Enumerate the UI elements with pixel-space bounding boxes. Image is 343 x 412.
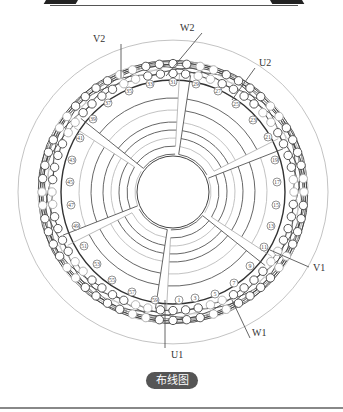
figure-caption: 布线图	[146, 372, 198, 389]
slot-number: 49	[73, 223, 79, 229]
slot-number: 59	[152, 297, 158, 303]
slot-number: 5	[214, 291, 217, 297]
terminal-label-w1: W1	[252, 327, 266, 338]
slot-number: 39	[90, 116, 96, 122]
slot-number: 3	[194, 295, 197, 301]
slot-number: 9	[249, 263, 252, 269]
slot-number: 37	[105, 100, 111, 106]
slot-number: 43	[69, 157, 75, 163]
slot-number: 57	[129, 289, 135, 295]
slot-number: 25	[233, 101, 239, 107]
slot-number: 53	[94, 261, 100, 267]
slot-number: 41	[77, 135, 83, 141]
slot-number: 11	[261, 244, 267, 250]
slot-number: 15	[273, 202, 279, 208]
slot-number: 29	[193, 81, 199, 87]
slot-number: 45	[67, 179, 73, 185]
slot-number: 51	[81, 243, 87, 249]
slot-number: 19	[272, 157, 278, 163]
terminal-label-u2: U2	[259, 57, 271, 68]
bottom-divider	[0, 407, 343, 409]
slot-number: 47	[68, 202, 74, 208]
terminal-label-u1: U1	[171, 349, 183, 360]
slot-number: 21	[265, 134, 271, 140]
slot-number: 7	[233, 280, 236, 286]
slot-number: 35	[126, 88, 132, 94]
slot-number: 33	[147, 81, 153, 87]
slot-number: 31	[170, 79, 176, 85]
slot-number: 23	[250, 117, 256, 123]
inner-connections	[63, 74, 283, 310]
slot-number: 17	[274, 179, 280, 185]
slot-number: 27	[215, 88, 221, 94]
slot-number: 1	[178, 297, 181, 303]
slot-number: 55	[109, 277, 115, 283]
terminal-label-w2: W2	[180, 22, 194, 33]
slot-number: 13	[268, 223, 274, 229]
terminal-label-v1: V1	[313, 262, 325, 273]
terminal-label-v2: V2	[93, 33, 105, 44]
winding-diagram: V2W2U2V1W1U1 135791113151719212325272931…	[0, 0, 343, 412]
